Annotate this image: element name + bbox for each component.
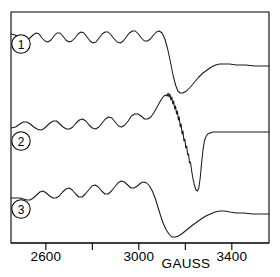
trace-label-2-text: 2: [18, 135, 25, 149]
trace-line-3: [11, 181, 269, 237]
x-tick-labels: 2600 3000 3400: [30, 249, 247, 264]
trace-label-1-text: 1: [18, 38, 25, 52]
esr-spectrum-figure: 1 2 3 2600 3000 3400 GAUSS: [0, 0, 280, 277]
trace-label-1: 1: [12, 35, 30, 53]
x-tick-label-3000: 3000: [123, 249, 154, 264]
x-tick-label-3400: 3400: [216, 249, 247, 264]
trace-label-3: 3: [12, 200, 30, 218]
trace-line-2: [11, 93, 269, 191]
x-axis-title: GAUSS: [162, 256, 211, 271]
plot-frame: [11, 12, 269, 243]
trace-label-3-text: 3: [18, 203, 25, 217]
trace-label-2: 2: [12, 132, 30, 150]
trace-line-1: [11, 31, 269, 93]
trace-group: [11, 31, 269, 237]
x-tick-label-2600: 2600: [30, 249, 61, 264]
